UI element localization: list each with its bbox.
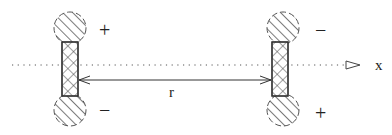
left-bottom-sign: − (99, 99, 110, 121)
axis-arrowhead-icon (346, 61, 360, 69)
left-dipole: + − (50, 10, 110, 132)
right-bottom-sign: + (315, 102, 326, 124)
axis-label: x (375, 57, 383, 73)
separation-label: r (169, 84, 174, 100)
separation-arrow: r (79, 76, 271, 100)
right-top-sign: − (315, 19, 326, 41)
dipole-diagram: x + − − + r (0, 0, 392, 135)
left-top-sign: + (99, 19, 110, 41)
right-dipole: − + (263, 10, 326, 132)
